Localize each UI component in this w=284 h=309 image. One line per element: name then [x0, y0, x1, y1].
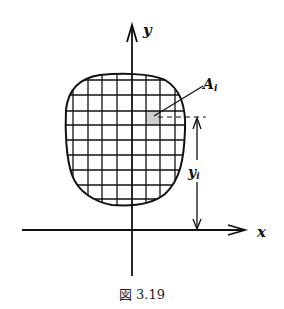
- x-axis: [22, 225, 245, 235]
- x-axis-label: x: [256, 223, 267, 241]
- y-axis: [127, 25, 137, 276]
- area-element-label: Ai: [201, 76, 218, 93]
- diagram: y x Ai yi: [0, 0, 284, 309]
- y-axis-label: y: [142, 21, 153, 39]
- mesh-grid: [55, 60, 195, 220]
- figure-caption: 図 3.19: [0, 284, 284, 303]
- distance-label: yi: [187, 164, 200, 181]
